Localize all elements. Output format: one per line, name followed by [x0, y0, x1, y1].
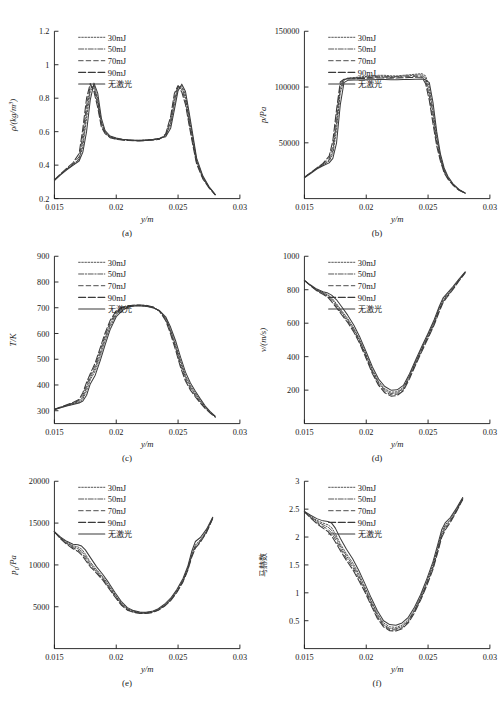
- legend-label-30mJ: 30mJ: [108, 258, 127, 268]
- y-tick-label: 15000: [29, 519, 50, 528]
- legend-c: 30mJ50mJ70mJ90mJ无激光: [79, 258, 132, 315]
- y-tick-label: 20000: [29, 477, 50, 486]
- series-line-30mJ: [304, 74, 465, 193]
- x-tick-label: 0.025: [169, 203, 188, 212]
- x-tick-label: 0.025: [169, 428, 188, 437]
- x-axis-label: y/m: [390, 439, 404, 449]
- axes-d: [304, 256, 489, 423]
- y-tick-label: 200: [287, 386, 299, 395]
- y-tick-label: 0.5: [289, 617, 299, 626]
- legend-label-70mJ: 70mJ: [358, 506, 377, 516]
- x-tick-label: 0.015: [295, 203, 314, 212]
- y-tick-label: 1000: [283, 252, 300, 261]
- x-tick-label: 0.03: [483, 203, 497, 212]
- x-axis-label: y/m: [140, 664, 154, 674]
- series-group-c: [54, 305, 215, 417]
- x-axis-ticks-c: 0.0150.020.0250.03: [45, 420, 247, 437]
- y-axis-ticks-a: 0.20.40.60.811.2: [39, 27, 58, 203]
- legend-label-70mJ: 70mJ: [358, 56, 377, 66]
- series-group-e: [54, 517, 212, 613]
- subplot-a-canvas: 0.20.40.60.811.20.0150.020.0250.03y/mρ/(…: [2, 6, 252, 242]
- legend-label-90mJ: 90mJ: [358, 68, 377, 78]
- y-axis-label: 马赫数: [258, 553, 268, 577]
- x-tick-label: 0.025: [419, 428, 438, 437]
- x-axis-ticks-e: 0.0150.020.0250.03: [45, 645, 247, 662]
- y-tick-label: 1.2: [39, 27, 49, 36]
- x-axis-ticks-a: 0.0150.020.0250.03: [45, 195, 247, 212]
- legend-label-30mJ: 30mJ: [108, 33, 127, 43]
- series-line-30mJ: [304, 498, 462, 627]
- series-line-90mJ: [54, 83, 215, 194]
- x-tick-label: 0.02: [359, 203, 373, 212]
- legend-label-90mJ: 90mJ: [108, 518, 127, 528]
- x-tick-label: 0.03: [233, 653, 247, 662]
- series-line-50mJ: [304, 75, 465, 193]
- axes-a: [54, 31, 239, 198]
- x-axis-ticks-d: 0.0150.020.0250.03: [295, 420, 497, 437]
- y-tick-label: 1: [295, 589, 299, 598]
- y-tick-label: 400: [287, 353, 299, 362]
- y-tick-label: 300: [37, 407, 49, 416]
- series-line-无激光: [304, 272, 465, 390]
- legend-label-50mJ: 50mJ: [358, 44, 377, 54]
- y-axis-ticks-f: 0.511.522.53: [289, 477, 308, 625]
- legend-label-无激光: 无激光: [358, 304, 382, 314]
- y-tick-label: 2: [295, 533, 299, 542]
- series-group-d: [304, 272, 465, 396]
- y-tick-label: 400: [37, 381, 49, 390]
- y-tick-label: 10000: [29, 561, 50, 570]
- y-tick-label: 800: [37, 278, 49, 287]
- subplot-b: 500001000001500000.0150.020.0250.03y/mp/…: [252, 6, 500, 242]
- y-tick-label: 800: [287, 286, 299, 295]
- y-tick-label: 3: [295, 477, 299, 486]
- series-line-90mJ: [304, 273, 465, 396]
- x-axis-label: y/m: [390, 664, 404, 674]
- y-tick-label: 50000: [279, 139, 300, 148]
- subplot-d: 20040060080010000.0150.020.0250.03y/mv/(…: [252, 231, 500, 467]
- x-tick-label: 0.03: [483, 428, 497, 437]
- series-line-90mJ: [304, 500, 462, 631]
- subplot-caption-e: (e): [2, 678, 252, 688]
- x-tick-label: 0.015: [45, 653, 64, 662]
- legend-label-30mJ: 30mJ: [108, 483, 127, 493]
- series-line-30mJ: [54, 85, 215, 195]
- x-tick-label: 0.015: [295, 428, 314, 437]
- series-line-50mJ: [304, 272, 465, 393]
- legend-label-无激光: 无激光: [108, 79, 132, 89]
- series-line-70mJ: [304, 273, 465, 395]
- legend-label-50mJ: 50mJ: [108, 269, 127, 279]
- legend-e: 30mJ50mJ70mJ90mJ无激光: [79, 483, 132, 540]
- legend-label-无激光: 无激光: [108, 529, 132, 539]
- axes-b: [304, 31, 489, 198]
- x-axis-label: y/m: [390, 214, 404, 224]
- legend-b: 30mJ50mJ70mJ90mJ无激光: [329, 33, 382, 90]
- x-tick-label: 0.02: [109, 203, 123, 212]
- series-line-30mJ: [304, 272, 465, 392]
- x-tick-label: 0.02: [359, 653, 373, 662]
- subplot-caption-f: (f): [252, 678, 500, 688]
- y-tick-label: 2.5: [289, 505, 299, 514]
- y-tick-label: 700: [37, 304, 49, 313]
- y-tick-label: 100000: [275, 83, 300, 92]
- y-tick-label: 600: [287, 319, 299, 328]
- y-tick-label: 600: [37, 330, 49, 339]
- series-line-70mJ: [304, 76, 465, 193]
- legend-label-30mJ: 30mJ: [358, 258, 377, 268]
- x-tick-label: 0.015: [45, 428, 64, 437]
- subplot-c: 3004005006007008009000.0150.020.0250.03y…: [2, 231, 252, 467]
- legend-label-30mJ: 30mJ: [358, 483, 377, 493]
- series-line-90mJ: [54, 519, 212, 614]
- legend-label-50mJ: 50mJ: [108, 44, 127, 54]
- legend-label-50mJ: 50mJ: [358, 494, 377, 504]
- subplot-d-canvas: 20040060080010000.0150.020.0250.03y/mv/(…: [252, 231, 500, 467]
- subplot-e-canvas: 50001000015000200000.0150.020.0250.03y/m…: [2, 456, 252, 692]
- series-line-无激光: [304, 79, 465, 193]
- series-group-a: [54, 83, 215, 195]
- x-tick-label: 0.015: [295, 653, 314, 662]
- y-axis-label: v/(m/s): [258, 328, 268, 352]
- subplot-a: 0.20.40.60.811.20.0150.020.0250.03y/mρ/(…: [2, 6, 252, 242]
- x-axis-label: y/m: [140, 439, 154, 449]
- legend-label-30mJ: 30mJ: [358, 33, 377, 43]
- legend-label-50mJ: 50mJ: [358, 269, 377, 279]
- x-axis-ticks-f: 0.0150.020.0250.03: [295, 645, 497, 662]
